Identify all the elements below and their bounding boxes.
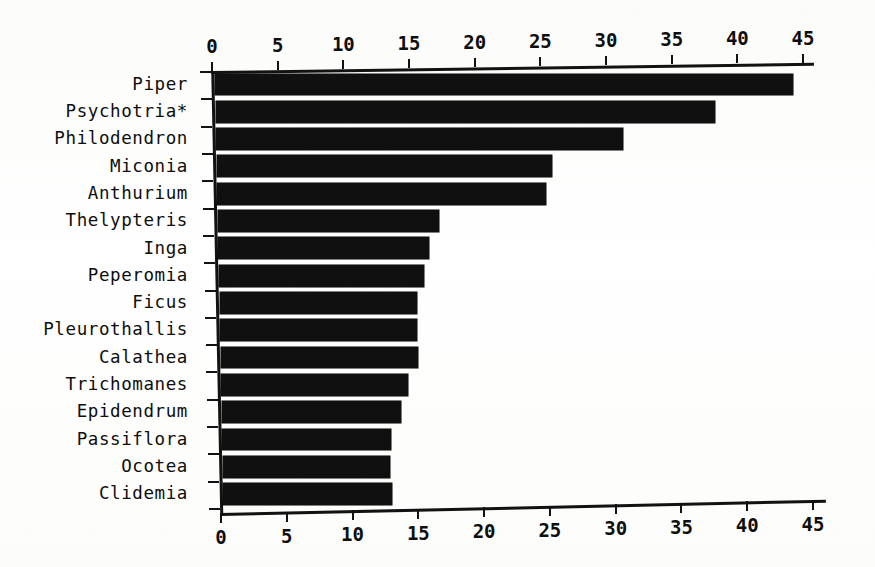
top-axis-tick-label: 0 [206, 35, 217, 57]
bottom-axis-tick [417, 509, 419, 519]
category-label: Philodendron [0, 128, 188, 148]
top-axis-tick [802, 54, 804, 63]
top-axis-tick-label: 10 [332, 33, 355, 55]
top-axis-tick [539, 57, 541, 66]
y-axis-tick [202, 153, 213, 155]
category-label: Miconia [0, 156, 188, 176]
bar [221, 374, 408, 396]
bar [220, 319, 417, 341]
bar [216, 101, 715, 123]
bar [221, 347, 418, 369]
top-axis-tick-label: 20 [463, 31, 486, 53]
category-labels: PiperPsychotria*PhilodendronMiconiaAnthu… [0, 0, 197, 567]
top-axis-tick-label: 5 [272, 34, 283, 56]
top-axis-tick [211, 62, 213, 71]
category-label: Peperomia [0, 265, 188, 285]
category-label: Passiflora [0, 429, 188, 449]
top-axis-tick [671, 55, 673, 64]
bottom-axis-tick [286, 512, 288, 522]
bottom-axis-tick-label: 0 [215, 526, 226, 548]
top-axis-tick-label: 40 [726, 27, 749, 49]
bar [218, 210, 439, 232]
y-axis-tick [205, 290, 216, 292]
cut-off-caption [300, 557, 840, 567]
category-label: Ocotea [0, 456, 188, 476]
y-axis-tick [206, 371, 217, 373]
top-axis-tick-label: 25 [529, 30, 552, 52]
bottom-axis-tick-label: 25 [538, 519, 561, 541]
category-label: Thelypteris [0, 210, 188, 230]
top-axis-tick [408, 59, 410, 68]
bottom-axis-tick [352, 510, 354, 520]
top-axis-tick [605, 56, 607, 65]
y-axis-tick [205, 317, 216, 319]
top-axis-tick [342, 60, 344, 69]
y-axis-tick [204, 262, 215, 264]
y-axis-tick [207, 399, 218, 401]
bar [218, 237, 428, 259]
bottom-axis-tick-label: 35 [670, 516, 693, 538]
y-axis-tick [208, 453, 219, 455]
bottom-axis-tick-label: 30 [604, 517, 627, 539]
bottom-axis-tick-label: 20 [473, 520, 496, 542]
bar-chart: PiperPsychotria*PhilodendronMiconiaAnthu… [0, 0, 875, 567]
y-axis-tick [203, 235, 214, 237]
bar [220, 292, 417, 314]
bar [219, 265, 424, 287]
y-axis-tick [207, 426, 218, 428]
bottom-axis-tick-label: 15 [407, 522, 430, 544]
bottom-axis-tick [812, 500, 814, 510]
category-label: Pleurothallis [0, 319, 188, 339]
category-label: Inga [0, 238, 188, 258]
category-label: Ficus [0, 292, 188, 312]
top-axis-line [211, 62, 814, 73]
y-axis-tick [201, 98, 212, 100]
bottom-axis-tick-label: 40 [736, 514, 759, 536]
top-axis-tick-label: 15 [398, 32, 421, 54]
y-axis-tick [200, 71, 211, 73]
top-axis-tick [277, 61, 279, 70]
bottom-axis-tick [680, 503, 682, 513]
category-label: Piper [0, 74, 188, 94]
top-axis-tick [474, 58, 476, 67]
bar [222, 401, 401, 423]
category-label: Trichomanes [0, 374, 188, 394]
y-axis-tick [206, 344, 217, 346]
bar [217, 155, 552, 177]
bar [216, 128, 623, 150]
bar [222, 429, 390, 451]
bar [223, 456, 390, 478]
y-axis-tick [209, 508, 220, 510]
category-label: Epidendrum [0, 401, 188, 421]
bottom-axis-tick [746, 501, 748, 511]
bottom-axis-tick [549, 506, 551, 516]
category-label: Psychotria* [0, 101, 188, 121]
y-axis-tick [208, 481, 219, 483]
bar [215, 74, 793, 96]
category-label: Clidemia [0, 483, 188, 503]
bottom-axis-tick-label: 5 [281, 525, 292, 547]
top-axis-tick-label: 45 [792, 27, 815, 49]
bottom-axis-tick [483, 507, 485, 517]
top-axis-tick-label: 35 [660, 28, 683, 50]
y-axis-tick [201, 126, 212, 128]
bar [223, 483, 391, 505]
bottom-axis-tick-label: 45 [802, 513, 825, 535]
category-label: Anthurium [0, 183, 188, 203]
y-axis-tick [203, 208, 214, 210]
bottom-axis-tick [615, 504, 617, 514]
category-label: Calathea [0, 347, 188, 367]
bottom-axis-tick-label: 10 [341, 523, 364, 545]
top-axis-tick [736, 54, 738, 63]
y-axis-tick [202, 180, 213, 182]
bar [217, 183, 545, 205]
top-axis-tick-label: 30 [595, 29, 618, 51]
